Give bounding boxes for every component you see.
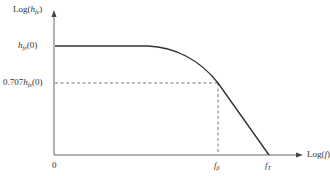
frequency-response-chart xyxy=(0,0,330,176)
response-curve xyxy=(55,46,269,155)
x-tick-fT: fT xyxy=(265,161,271,171)
x-axis-arrow-icon xyxy=(296,153,303,158)
hfe0-suffix: (0) xyxy=(27,40,38,50)
x-tick-origin: 0 xyxy=(52,161,57,170)
y-axis-label-prefix: Log( xyxy=(13,4,31,14)
fbeta-sub: β xyxy=(217,165,220,171)
y-axis-arrow-icon xyxy=(52,10,57,17)
hfe707-prefix: 0.707 xyxy=(3,77,23,87)
x-tick-fbeta: fβ xyxy=(214,161,220,171)
fT-sub: T xyxy=(268,165,271,171)
y-axis-label: Log(hfe) xyxy=(13,5,42,15)
y-axis-label-suffix: ) xyxy=(39,4,42,14)
x-axis-label: Log(f) xyxy=(307,150,330,159)
hfe707-suffix: (0) xyxy=(32,77,43,87)
y-tick-hfe0: hfe(0) xyxy=(18,41,37,51)
y-tick-0707-hfe0: 0.707hfe(0) xyxy=(3,78,43,88)
x-axis-label-prefix: Log( xyxy=(307,149,325,159)
